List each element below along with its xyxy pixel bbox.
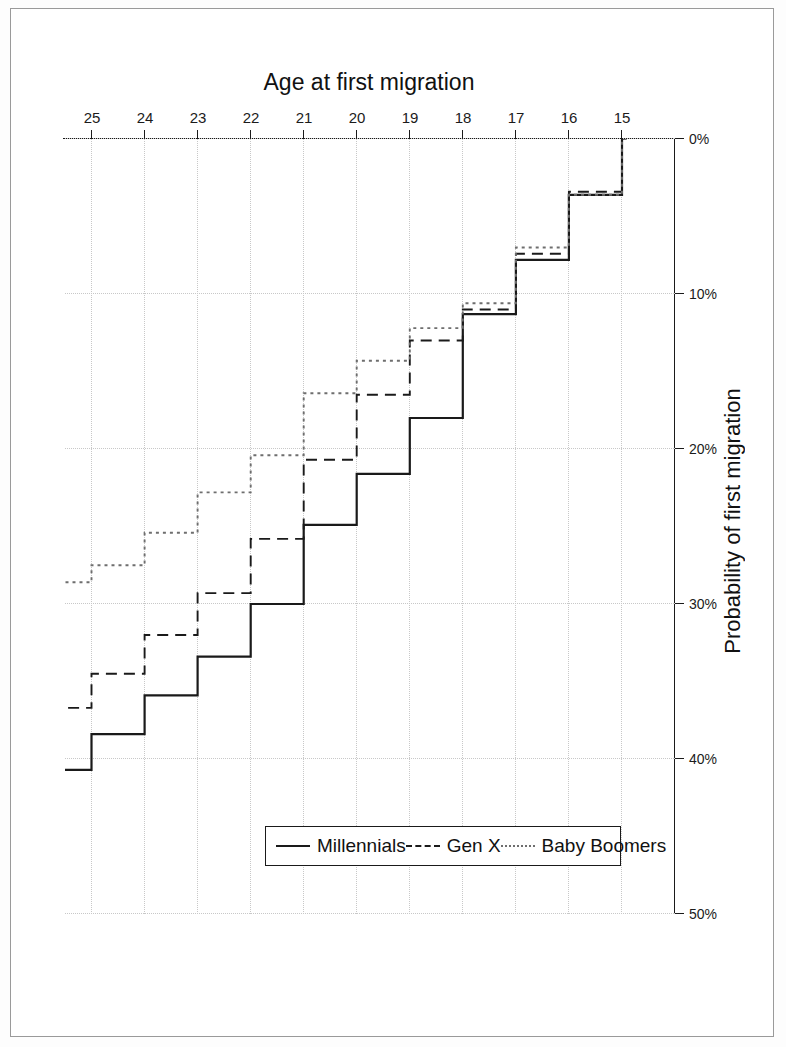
x-axis-tick-label: 18: [454, 109, 471, 126]
x-axis-tick: [409, 130, 410, 139]
y-axis-tick: [675, 913, 684, 914]
y-axis-tick: [675, 293, 684, 294]
dotted-line-swatch-icon: [501, 845, 535, 847]
x-axis-tick: [356, 130, 357, 139]
x-axis-tick-label: 22: [242, 109, 259, 126]
legend: Millennials Gen X Baby Boomers: [265, 826, 621, 866]
scanned-figure-page: 15161718192021222324250%10%20%30%40%50% …: [0, 0, 786, 1047]
y-axis-tick-label: 50%: [689, 906, 717, 922]
y-axis-tick: [675, 758, 684, 759]
x-axis-tick: [515, 130, 516, 139]
x-axis-tick: [91, 130, 92, 139]
y-axis-tick: [675, 138, 684, 139]
y-axis-tick-label: 30%: [689, 596, 717, 612]
x-axis-tick-label: 17: [508, 109, 525, 126]
legend-label-baby-boomers: Baby Boomers: [542, 835, 667, 857]
y-axis-tick: [675, 603, 684, 604]
y-axis-tick-label: 20%: [689, 441, 717, 457]
legend-entry-gen-x: Gen X: [406, 835, 501, 857]
x-axis-tick-label: 20: [348, 109, 365, 126]
step-curves: [65, 139, 675, 914]
x-axis-tick: [144, 130, 145, 139]
y-axis-tick-label: 0%: [689, 131, 709, 147]
x-axis-tick: [250, 130, 251, 139]
legend-label-millennials: Millennials: [317, 835, 406, 857]
x-axis-tick: [303, 130, 304, 139]
x-axis-tick-label: 21: [295, 109, 312, 126]
y-axis-tick-label: 10%: [689, 286, 717, 302]
legend-entry-baby-boomers: Baby Boomers: [501, 835, 667, 857]
x-axis-tick: [197, 130, 198, 139]
x-axis-tick-label: 19: [401, 109, 418, 126]
solid-line-swatch-icon: [276, 845, 310, 847]
legend-label-gen-x: Gen X: [447, 835, 501, 857]
x-axis-tick-label: 16: [561, 109, 578, 126]
x-axis-tick: [568, 130, 569, 139]
x-axis-tick-label: 15: [614, 109, 631, 126]
dashed-line-swatch-icon: [406, 845, 440, 847]
x-axis-tick-label: 23: [189, 109, 206, 126]
figure: 15161718192021222324250%10%20%30%40%50% …: [13, 11, 771, 1034]
legend-entry-millennials: Millennials: [276, 835, 406, 857]
y-axis-tick-label: 40%: [689, 751, 717, 767]
x-axis-tick-label: 24: [136, 109, 153, 126]
plot-area: [65, 139, 675, 914]
x-axis-title: Age at first migration: [63, 69, 675, 96]
x-axis-tick: [462, 130, 463, 139]
x-axis-tick: [621, 130, 622, 139]
rotated-figure-container: 15161718192021222324250%10%20%30%40%50% …: [13, 11, 771, 1034]
series-line-millennials: [65, 139, 626, 770]
series-line-gen-x: [65, 139, 626, 708]
y-axis-tick: [675, 448, 684, 449]
y-axis-title: Probability of first migration: [720, 131, 746, 911]
series-line-baby-boomers: [65, 139, 626, 582]
x-axis-tick-label: 25: [83, 109, 100, 126]
